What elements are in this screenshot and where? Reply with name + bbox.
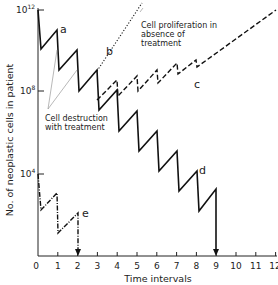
arrow-e-icon (75, 249, 81, 256)
svg-text:11: 11 (250, 261, 261, 271)
label-c: c (194, 78, 200, 91)
svg-text:8: 8 (194, 261, 200, 271)
x-axis-label: Time intervals (123, 273, 191, 284)
svg-text:0: 0 (33, 261, 39, 271)
y-tick-1e8: 108 (20, 84, 35, 96)
label-b: b (106, 45, 113, 58)
y-tick-1e12: 1012 (16, 3, 35, 15)
label-e: e (82, 207, 89, 220)
annotation-destruction-2: with treatment (45, 123, 105, 132)
svg-text:9: 9 (213, 261, 219, 271)
y-axis-label: No. of neoplastic cells in patient (4, 63, 15, 216)
label-d: d (199, 164, 206, 177)
series-b-line (97, 3, 142, 71)
annotation-proliferation-1: Cell proliferation in (141, 21, 217, 30)
series-e-line (38, 174, 78, 251)
annotation-proliferation-2: absence of (141, 30, 185, 39)
svg-text:3: 3 (95, 261, 101, 271)
chart: 1012 108 104 0 1 2 3 4 5 6 7 8 9 10 11 1… (0, 0, 278, 285)
svg-text:12: 12 (269, 261, 278, 271)
svg-text:5: 5 (134, 261, 140, 271)
svg-text:4: 4 (114, 261, 120, 271)
annotation-destruction-1: Cell destruction (45, 114, 108, 123)
svg-text:7: 7 (174, 261, 180, 271)
label-a: a (60, 23, 67, 36)
svg-text:2: 2 (75, 261, 81, 271)
y-tick-1e4: 104 (20, 167, 35, 179)
svg-text:1: 1 (55, 261, 61, 271)
proliferation-leader (140, 8, 143, 12)
destruction-leaders (48, 50, 77, 109)
y-tick-labels: 1012 108 104 (16, 3, 35, 179)
arrow-d-icon (213, 249, 219, 256)
svg-text:6: 6 (154, 261, 160, 271)
annotation-proliferation-3: treatment (141, 39, 181, 48)
svg-text:10: 10 (230, 261, 242, 271)
x-tick-labels: 0 1 2 3 4 5 6 7 8 9 10 11 12 (33, 261, 278, 271)
